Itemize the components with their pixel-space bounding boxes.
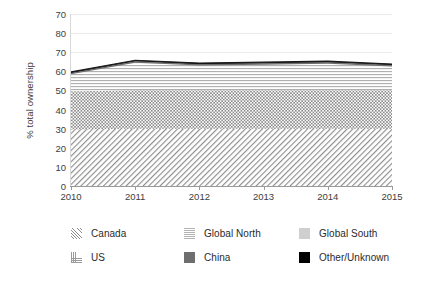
y-axis-tick-label: 20 (55, 142, 66, 153)
legend-item-china[interactable]: China (184, 246, 299, 268)
x-axis-tick-mark (199, 186, 200, 190)
legend-item-global-south[interactable]: Global South (299, 222, 396, 244)
x-axis-line (70, 186, 392, 187)
x-axis-tick-mark (264, 186, 265, 190)
stacked-area-series (71, 14, 392, 186)
legend-label-canada: Canada (91, 228, 126, 239)
x-axis-tick-label: 2013 (253, 191, 274, 202)
legend-label-us: US (91, 252, 105, 263)
y-axis-tick-label: 80 (55, 28, 66, 39)
legend-label-global-south: Global South (319, 228, 377, 239)
china-swatch (184, 252, 195, 263)
x-axis-tick-mark (328, 186, 329, 190)
x-axis-tick-mark (135, 186, 136, 190)
area-band-canada (71, 129, 392, 186)
x-axis-tick-label: 2015 (381, 191, 402, 202)
x-axis-tick-label: 2014 (317, 191, 338, 202)
y-axis-line (70, 14, 71, 186)
canada-swatch (71, 228, 82, 239)
global-south-swatch (299, 228, 310, 239)
x-axis-tick-label: 2010 (60, 191, 81, 202)
y-axis-title: % total ownership (24, 26, 35, 176)
y-axis-tick-label: 60 (55, 66, 66, 77)
y-axis-tick-label: 30 (55, 123, 66, 134)
x-axis-tick-label: 2011 (125, 191, 145, 202)
y-axis-tick-label: 70 (55, 47, 66, 58)
legend-label-global-north: Global North (204, 228, 261, 239)
legend-label-other-unknown: Other/Unknown (319, 252, 389, 263)
legend-item-global-north[interactable]: Global North (184, 222, 299, 244)
global-north-swatch (184, 228, 195, 239)
other-unknown-swatch (299, 252, 310, 263)
y-axis-tick-label: 10 (55, 161, 66, 172)
legend-row-1: Canada Global North Global South (71, 222, 396, 244)
x-axis-tick-label: 2012 (189, 191, 210, 202)
legend-item-other-unknown[interactable]: Other/Unknown (299, 246, 396, 268)
plot-area: 7080706050403020100 (71, 14, 392, 186)
x-axis-tick-mark (392, 186, 393, 190)
chart-legend: Canada Global North Global South US Chin… (71, 222, 396, 270)
legend-label-china: China (204, 252, 230, 263)
legend-item-us[interactable]: US (71, 246, 184, 268)
legend-item-canada[interactable]: Canada (71, 222, 184, 244)
legend-row-2: US China Other/Unknown (71, 246, 396, 268)
x-axis-tick-mark (71, 186, 72, 190)
y-axis-tick-label: 0 (61, 181, 66, 192)
y-axis-tick-label: 40 (55, 104, 66, 115)
y-axis-tick-label: 70 (55, 9, 66, 20)
stacked-area-chart-figure: % total ownership 7080706050403020100 (0, 0, 425, 281)
y-axis-tick-label: 50 (55, 85, 66, 96)
us-swatch (71, 252, 82, 263)
